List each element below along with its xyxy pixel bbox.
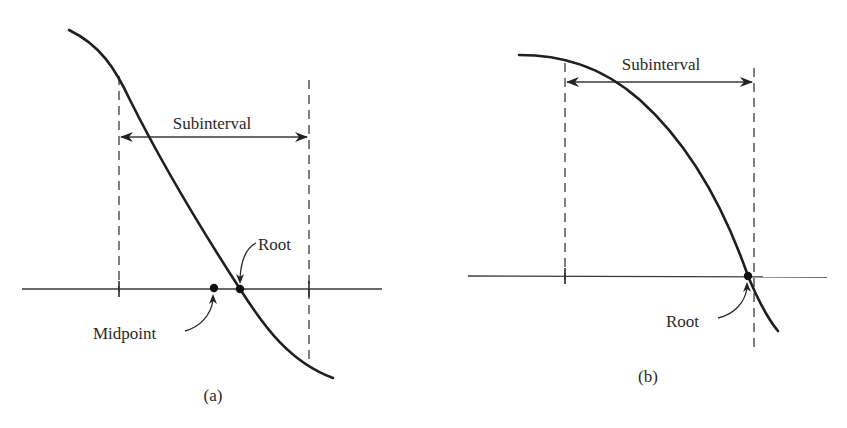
midpoint-dot (210, 284, 218, 292)
root-pointer-b (718, 288, 747, 318)
root-label-b: Root (666, 312, 699, 331)
subinterval-label-a: Subinterval (173, 114, 252, 133)
caption-b: (b) (638, 367, 658, 386)
root-pointer-a (240, 243, 256, 278)
x-axis-b (468, 276, 827, 277)
root-dot-b (744, 272, 752, 280)
root-label-a: Root (258, 235, 291, 254)
midpoint-label: Midpoint (93, 324, 157, 343)
panel-a: Subinterval Root Midpoint (a) (22, 30, 382, 405)
function-curve-b (519, 55, 778, 331)
midpoint-pointer (185, 300, 213, 331)
caption-a: (a) (204, 386, 223, 405)
root-dot-a (236, 285, 244, 293)
figure-canvas: Subinterval Root Midpoint (a) Subinterva… (0, 0, 847, 428)
subinterval-label-b: Subinterval (622, 55, 701, 74)
panel-b: Subinterval Root (b) (468, 55, 827, 386)
